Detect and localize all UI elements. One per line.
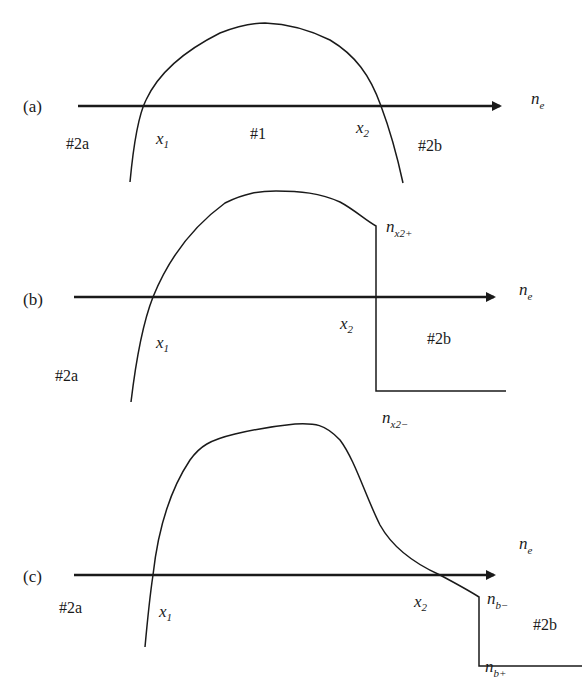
panel-c-lower-jump-label: nb+ xyxy=(485,657,506,679)
diagram-canvas: (a) ne #2a x1 #1 x2 #2b (b) ne nx2+ nx2−… xyxy=(0,0,588,686)
panel-b-lower-jump-label: nx2− xyxy=(382,408,408,430)
panel-c-label: (c) xyxy=(23,567,42,586)
panel-a-density-curve xyxy=(130,23,403,183)
panel-b-axis-label: ne xyxy=(519,280,533,302)
panel-b: (b) ne nx2+ nx2− #2a x1 x2 #2b xyxy=(23,191,533,430)
panel-b-region-2a: #2a xyxy=(55,367,78,384)
panel-c-density-curve xyxy=(145,424,582,666)
panel-b-label: (b) xyxy=(23,290,43,309)
panel-b-upper-jump-label: nx2+ xyxy=(386,217,412,239)
panel-c: (c) ne nb− nb+ #2a x1 x2 #2b xyxy=(23,424,582,679)
panel-a-x2-label: x2 xyxy=(355,118,370,139)
panel-a-region-1: #1 xyxy=(250,125,266,142)
panel-b-x1-label: x1 xyxy=(155,333,169,354)
panel-c-x2-label: x2 xyxy=(413,592,428,613)
panel-c-axis-label: ne xyxy=(519,534,533,556)
panel-a-label: (a) xyxy=(23,97,42,116)
panel-a: (a) ne #2a x1 #1 x2 #2b xyxy=(23,23,545,183)
panel-c-region-2b: #2b xyxy=(533,616,557,633)
panel-c-x1-label: x1 xyxy=(158,602,172,623)
panel-a-x1-label: x1 xyxy=(155,129,169,150)
panel-c-upper-jump-label: nb− xyxy=(487,589,508,611)
panel-a-axis-label: ne xyxy=(531,89,545,111)
panel-b-x2-label: x2 xyxy=(339,314,354,335)
panel-b-region-2b: #2b xyxy=(427,330,451,347)
panel-a-region-2b: #2b xyxy=(418,137,442,154)
panel-a-region-2a: #2a xyxy=(66,135,89,152)
panel-c-region-2a: #2a xyxy=(59,599,82,616)
